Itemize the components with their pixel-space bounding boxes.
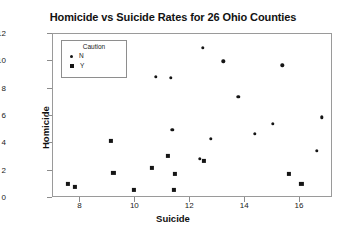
legend-marker-circle-icon	[70, 55, 73, 58]
x-tick-label: 8	[64, 201, 94, 210]
data-point-N	[253, 132, 256, 135]
data-point-N	[271, 122, 274, 125]
data-point-Y	[150, 166, 154, 170]
y-tick-mark	[47, 33, 52, 34]
data-point-N	[315, 149, 318, 152]
data-point-N	[237, 95, 240, 98]
x-axis-title: Suicide	[0, 213, 346, 224]
x-tick-label: 12	[174, 201, 204, 210]
legend-entry-n: N	[62, 51, 126, 61]
data-point-N	[201, 46, 204, 49]
data-point-N	[320, 116, 323, 119]
y-tick-label: 8	[0, 83, 6, 92]
scatter-plot-figure: Homicide vs Suicide Rates for 26 Ohio Co…	[0, 0, 346, 235]
y-tick-label: 6	[0, 111, 6, 120]
data-point-N	[209, 137, 212, 140]
data-point-Y	[73, 185, 77, 189]
x-tick-label: 10	[119, 201, 149, 210]
legend-title: Caution	[62, 43, 126, 51]
data-point-Y	[111, 171, 115, 175]
x-tick-label: 16	[284, 201, 314, 210]
y-tick-label: 10	[0, 56, 6, 65]
data-point-Y	[202, 159, 206, 163]
data-point-Y	[173, 172, 177, 176]
legend-label-y: Y	[80, 62, 84, 70]
data-point-N	[281, 64, 284, 67]
data-point-Y	[166, 154, 170, 158]
y-tick-label: 2	[0, 165, 6, 174]
y-tick-label: 12	[0, 29, 6, 38]
legend: Caution N Y	[61, 40, 127, 78]
data-point-N	[171, 128, 174, 131]
plot-area: Caution N Y Homicide	[52, 33, 332, 197]
y-tick-mark	[47, 197, 52, 198]
legend-marker-square-icon	[70, 64, 74, 68]
y-tick-mark	[47, 60, 52, 61]
data-point-Y	[132, 188, 136, 192]
data-point-N	[169, 76, 172, 79]
data-point-N	[154, 75, 157, 78]
y-tick-mark	[47, 115, 52, 116]
chart-title: Homicide vs Suicide Rates for 26 Ohio Co…	[0, 11, 346, 23]
y-tick-label: 0	[0, 193, 6, 202]
y-tick-mark	[47, 142, 52, 143]
data-point-Y	[287, 172, 291, 176]
x-tick-label: 14	[229, 201, 259, 210]
data-point-Y	[109, 139, 113, 143]
data-point-Y	[299, 182, 303, 186]
y-tick-label: 4	[0, 138, 6, 147]
y-tick-mark	[47, 170, 52, 171]
data-point-N	[221, 60, 224, 63]
data-point-Y	[172, 188, 176, 192]
legend-label-n: N	[79, 52, 84, 60]
y-tick-mark	[47, 88, 52, 89]
data-point-Y	[66, 182, 70, 186]
legend-entry-y: Y	[62, 61, 126, 71]
